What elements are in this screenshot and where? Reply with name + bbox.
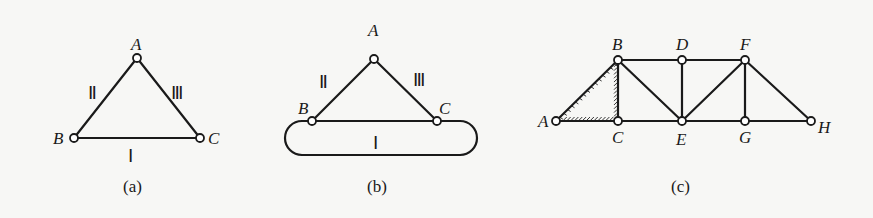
joint-g (741, 117, 749, 125)
node-label-a: A (130, 35, 142, 54)
hatch-tick-bc (614, 87, 617, 90)
diagram-stage: A B C Ⅱ Ⅲ Ⅰ (a) A B C Ⅱ Ⅲ Ⅰ (b) (0, 0, 873, 218)
hatch-tick-bc (614, 83, 617, 86)
joint-e (678, 117, 686, 125)
figure-a: A B C Ⅱ Ⅲ Ⅰ (a) (53, 35, 220, 196)
body-label-ii: Ⅱ (319, 72, 328, 92)
joint-a (370, 55, 378, 63)
caption-c: (c) (671, 177, 690, 196)
hatch-tick-ac (568, 117, 571, 120)
hatch-tick-ac (606, 117, 609, 120)
joint-d (678, 56, 686, 64)
node-label-f: F (739, 35, 751, 54)
hatch-tick-bc (614, 91, 617, 94)
hatch-tick-ac (603, 117, 606, 120)
figure-c: A B C D E F G H (c) (537, 35, 832, 196)
caption-b: (b) (367, 177, 387, 196)
hatch-tick-ac (575, 117, 578, 120)
hatch-tick-ac (599, 117, 602, 120)
hatched-triangle-abc (560, 64, 617, 120)
node-label-c: C (208, 129, 220, 148)
member-be (618, 60, 682, 121)
node-label-b: B (298, 99, 309, 118)
joint-b (70, 134, 78, 142)
node-label-c: C (612, 128, 624, 147)
body-label-i: Ⅰ (373, 133, 378, 153)
hatch-tick-bc (614, 71, 617, 74)
hatch-tick-ac (587, 117, 590, 120)
node-label-c: C (439, 99, 451, 118)
member-ac (137, 58, 200, 138)
node-label-b: B (53, 129, 64, 148)
hatch-tick-bc (614, 75, 617, 78)
joint-a (133, 54, 141, 62)
caption-a: (a) (123, 177, 142, 196)
hatch-tick-bc (614, 110, 617, 113)
node-label-a: A (537, 112, 549, 131)
hatch-tick-ac (610, 117, 613, 120)
member-ab (74, 58, 137, 138)
joint-c (196, 134, 204, 142)
hatch-tick-bc (614, 106, 617, 109)
hatch-tick-bc (614, 94, 617, 97)
hatch-tick-bc (614, 68, 617, 71)
joint-a (552, 117, 560, 125)
member-ef (682, 60, 745, 121)
body-label-iii: Ⅲ (171, 83, 183, 103)
hatch-tick-ac (579, 117, 582, 120)
body-label-i: Ⅰ (128, 146, 133, 166)
node-label-g: G (739, 128, 751, 147)
hatch-tick-ac (591, 117, 594, 120)
hatch-tick-bc (614, 113, 617, 116)
joint-h (807, 117, 815, 125)
hatch-tick-bc (614, 98, 617, 101)
node-label-d: D (675, 35, 689, 54)
body-label-ii: Ⅱ (88, 83, 97, 103)
node-label-h: H (817, 118, 832, 137)
joint-b (614, 56, 622, 64)
figure-b: A B C Ⅱ Ⅲ Ⅰ (b) (285, 21, 477, 196)
hatch-tick-ac (572, 117, 575, 120)
body-label-iii: Ⅲ (413, 70, 425, 90)
rigid-body-i (285, 121, 477, 155)
node-label-e: E (675, 130, 687, 149)
hatch-tick-bc (614, 79, 617, 82)
member-ab (556, 60, 618, 121)
joint-f (741, 56, 749, 64)
member-ac (374, 59, 437, 121)
diagram-canvas: A B C Ⅱ Ⅲ Ⅰ (a) A B C Ⅱ Ⅲ Ⅰ (b) (0, 0, 873, 218)
hatch-tick-ac (583, 117, 586, 120)
node-label-a: A (367, 21, 379, 40)
joint-b (308, 117, 316, 125)
hatch-tick-ac (564, 117, 567, 120)
joint-c (433, 117, 441, 125)
hatch-tick-ac (595, 117, 598, 120)
member-fh (745, 60, 811, 121)
joint-c (614, 117, 622, 125)
node-label-b: B (612, 35, 623, 54)
hatch-tick-bc (614, 102, 617, 105)
